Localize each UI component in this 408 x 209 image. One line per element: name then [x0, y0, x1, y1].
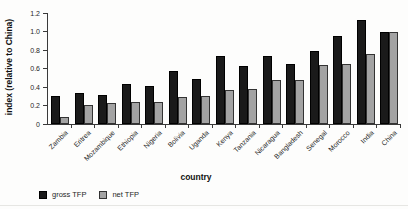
bottom-rule-divider — [0, 205, 408, 206]
bar-gross-tfp-india — [357, 20, 366, 124]
bar-gross-tfp-uganda — [192, 79, 201, 124]
legend-item-gross-tfp: gross TFP — [39, 190, 86, 199]
x-tick — [94, 125, 95, 128]
x-tick — [282, 125, 283, 128]
bar-net-tfp-senegal — [319, 65, 328, 124]
x-tick — [212, 125, 213, 128]
bar-gross-tfp-kenya — [216, 56, 225, 124]
bar-net-tfp-china — [389, 32, 398, 125]
x-tick — [400, 125, 401, 128]
x-tick — [118, 125, 119, 128]
bar-gross-tfp-tanzania — [239, 66, 248, 124]
bar-net-tfp-morocco — [342, 64, 351, 124]
bar-gross-tfp-ethiopia — [122, 84, 131, 124]
x-tick — [165, 125, 166, 128]
legend-swatch-net-tfp — [99, 191, 107, 199]
legend-swatch-gross-tfp — [39, 191, 47, 199]
bar-net-tfp-mozambique — [107, 103, 116, 124]
y-tick-label: 1.2 — [12, 9, 40, 18]
bar-net-tfp-zambia — [60, 117, 69, 124]
x-tick — [71, 125, 72, 128]
bar-net-tfp-nicaragua — [272, 80, 281, 124]
bar-gross-tfp-morocco — [333, 36, 342, 124]
bar-net-tfp-ethiopia — [131, 102, 140, 124]
bar-gross-tfp-bangladesh — [286, 64, 295, 124]
bar-gross-tfp-mozambique — [98, 95, 107, 124]
bar-gross-tfp-nigeria — [145, 86, 154, 124]
bar-gross-tfp-bolivia — [169, 71, 178, 124]
y-tick-label: 0.6 — [12, 64, 40, 73]
y-tick-label: 0.4 — [12, 83, 40, 92]
x-tick — [306, 125, 307, 128]
y-tick-label: 0.2 — [12, 101, 40, 110]
x-tick — [376, 125, 377, 128]
y-tick-label: 0 — [12, 120, 40, 129]
legend-item-net-tfp: net TFP — [99, 190, 139, 199]
legend-label-gross-tfp: gross TFP — [52, 190, 86, 199]
y-tick-label: 0.8 — [12, 46, 40, 55]
x-tick — [329, 125, 330, 128]
x-axis-title: country — [146, 172, 246, 182]
plot-area — [47, 13, 401, 125]
bar-net-tfp-bangladesh — [295, 80, 304, 124]
bar-gross-tfp-eritrea — [75, 93, 84, 124]
legend: gross TFPnet TFP — [39, 190, 139, 199]
bar-net-tfp-kenya — [225, 90, 234, 124]
bar-net-tfp-nigeria — [154, 102, 163, 124]
bar-net-tfp-eritrea — [84, 105, 93, 124]
bar-net-tfp-india — [366, 54, 375, 124]
bar-gross-tfp-nicaragua — [263, 56, 272, 124]
tfp-bar-chart-figure: index (relative to China) 00.20.40.60.81… — [0, 0, 408, 209]
y-tick-label: 1.0 — [12, 27, 40, 36]
bar-net-tfp-bolivia — [178, 97, 187, 124]
legend-label-net-tfp: net TFP — [112, 190, 139, 199]
bar-net-tfp-tanzania — [248, 89, 257, 124]
bar-gross-tfp-zambia — [51, 96, 60, 124]
x-tick — [353, 125, 354, 128]
x-tick — [259, 125, 260, 128]
x-tick — [188, 125, 189, 128]
x-tick — [141, 125, 142, 128]
bar-net-tfp-uganda — [201, 96, 210, 124]
bar-gross-tfp-china — [380, 32, 389, 125]
x-tick — [235, 125, 236, 128]
bar-gross-tfp-senegal — [310, 51, 319, 124]
